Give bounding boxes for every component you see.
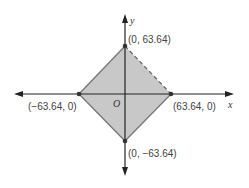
vertex-left-label: (−63.64, 0) bbox=[28, 101, 77, 112]
vertex-bottom-label: (0, −63.64) bbox=[128, 148, 177, 159]
y-axis-label: y bbox=[129, 15, 135, 26]
coordinate-diagram: y x O (0, 63.64) (63.64, 0) (0, −63.64) … bbox=[0, 0, 249, 188]
vertex-top bbox=[123, 44, 128, 49]
vertex-right-label: (63.64, 0) bbox=[173, 101, 216, 112]
origin-label: O bbox=[113, 98, 120, 109]
vertex-bottom bbox=[123, 139, 128, 144]
x-axis-left-arrow-icon bbox=[14, 91, 23, 97]
vertex-top-label: (0, 63.64) bbox=[128, 34, 171, 45]
y-axis-top-arrow-icon bbox=[122, 14, 128, 23]
y-axis-bottom-arrow-icon bbox=[122, 167, 128, 176]
x-axis-label: x bbox=[227, 99, 233, 110]
vertex-left bbox=[77, 92, 82, 97]
x-axis-right-arrow-icon bbox=[225, 91, 234, 97]
vertex-right bbox=[169, 92, 174, 97]
